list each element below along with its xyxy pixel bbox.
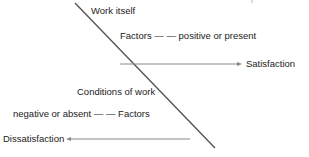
dissatisfaction-arrowhead-icon <box>66 137 71 141</box>
conditions-of-work-label: Conditions of work <box>77 86 155 97</box>
dissatisfaction-label: Dissatisfaction <box>3 133 64 144</box>
diagonal-divider-line <box>75 3 215 148</box>
satisfaction-arrowhead-icon <box>237 62 242 66</box>
work-itself-label: Work itself <box>91 5 135 16</box>
factors-positive-label: Factors — — positive or present <box>120 30 256 41</box>
factors-negative-label: negative or absent — — Factors <box>13 108 150 119</box>
satisfaction-label: Satisfaction <box>246 58 295 69</box>
